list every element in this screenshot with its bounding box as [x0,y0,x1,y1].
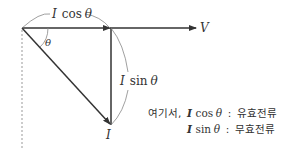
icos-label: I cos θ [51,7,93,21]
legend-line-2: I sin θ : 무효전류 [186,123,275,135]
phasor-diagram: I cos θ θ V I sin θ I 여기서, I cos θ : 유효전… [0,0,288,150]
current-label: I [105,128,111,142]
current-arrow [22,28,110,124]
legend-line-1: 여기서, I cos θ : 유효전류 [148,107,277,119]
isin-brace-arc-top [111,28,128,72]
angle-label: θ [45,37,51,48]
isin-label: I sin θ [119,74,158,88]
isin-brace-arc-bottom [111,90,128,125]
icos-brace-arc [22,14,50,28]
voltage-label: V [200,21,210,35]
